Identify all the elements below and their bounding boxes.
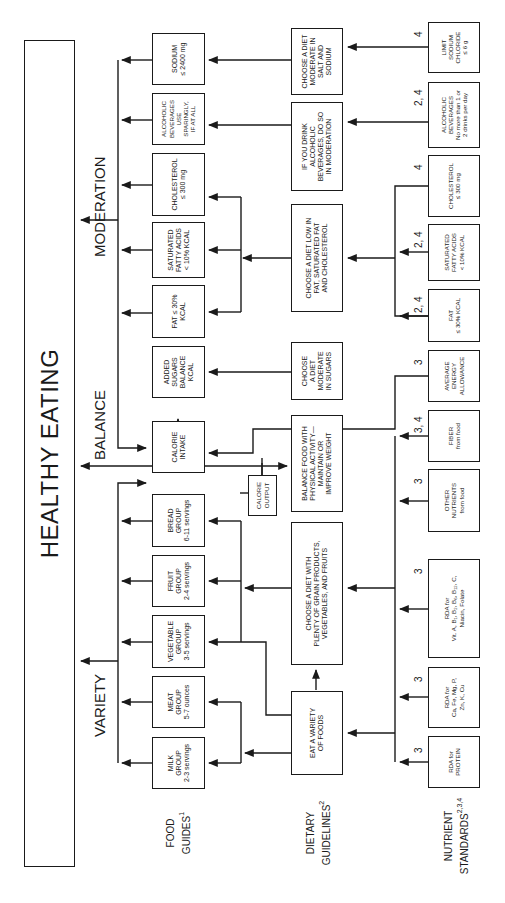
ref-rda-vitamins: 3 xyxy=(414,568,424,574)
nutrient-average-energy: AVERAGE ENERGY ALLOWANCE xyxy=(428,350,480,402)
nutrient-fiber: FIBER from food xyxy=(428,410,480,462)
nutrient-rda-vitamins: RDA for Vit. A, B₁, B₂, B₆, B₁₂, C, Niac… xyxy=(428,559,480,658)
row-label-dietary-guidelines: DIETARY GUIDELINES2 xyxy=(305,793,332,873)
guideline-low-fat: CHOOSE A DIET LOW IN FAT, SATURATED FAT … xyxy=(291,204,343,312)
nutrient-saturated-fat: SATURATED FATTY ACIDS < 10% KCAL xyxy=(428,224,480,281)
ref-alcohol: 2, 4 xyxy=(414,89,424,106)
guideline-plenty-grains: CHOOSE A DIET WITH PLENTY OF GRAIN PRODU… xyxy=(291,522,343,665)
nutrient-fat: FAT ≤ 30% KCAL xyxy=(428,289,480,342)
ref-other: 3 xyxy=(414,478,424,484)
food-guide-fat: FAT ≤ 30% KCAL xyxy=(152,285,205,338)
food-guide-vegetable: VEGETABLE GROUP 3-5 servings xyxy=(152,615,205,668)
nutrient-cholesterol: CHOLESTEROL ≤ 300 mg xyxy=(428,155,480,217)
food-guide-bread: BREAD GROUP 6-11 servings xyxy=(152,494,205,547)
ref-rda-protein: 3 xyxy=(414,747,424,753)
food-guide-fruit: FRUIT GROUP 2-4 servings xyxy=(152,555,205,607)
food-guide-calorie-intake: CALORIE INTAKE xyxy=(152,421,205,473)
guideline-salt-sodium: CHOOSE A DIET MODERATE IN SALT AND SODIU… xyxy=(291,28,343,95)
food-guide-meat: MEAT GROUP 5-7 ounces xyxy=(152,676,205,728)
ref-limit-sodium-chloride: 4 xyxy=(414,31,424,37)
guideline-variety: EAT A VARIETY OF FOODS xyxy=(291,691,343,775)
section-balance: BALANCE xyxy=(92,390,108,460)
nutrient-limit-sodium-chloride: LIMIT SODIUM CHLORIDE ≤ 6 g xyxy=(428,22,480,73)
section-variety: VARIETY xyxy=(92,674,108,737)
calorie-output-box: CALORIE OUTPUT xyxy=(248,475,277,516)
guideline-moderate-sugars: CHOOSE A DIET MODERATE IN SUGARS xyxy=(291,342,343,400)
section-moderation: MODERATION xyxy=(92,156,108,257)
healthy-eating-title-box: HEALTHY EATING xyxy=(24,40,75,867)
ref-fiber: 3, 4 xyxy=(414,416,424,433)
food-guide-alcohol: ALCOHOLIC BEVERAGES USE SPARINGLY, IF AT… xyxy=(152,93,205,145)
ref-fat: 2, 4 xyxy=(414,296,424,313)
ref-rda-minerals: 3 xyxy=(414,676,424,682)
food-guide-added-sugars: ADDED SUGARS BALANCE KCAL xyxy=(152,346,205,398)
guideline-balance-activity: BALANCE FOOD WITH PHYSICAL ACTIVITY— MAI… xyxy=(291,415,343,512)
nutrient-rda-minerals: RDA for Ca, Fe, Mg, P, Zn, K, Cu xyxy=(428,667,480,728)
ref-average-energy: 3 xyxy=(414,359,424,365)
row-label-food-guides: FOOD GUIDES1 xyxy=(165,803,192,863)
ref-cholesterol: 4 xyxy=(414,164,424,170)
food-guide-cholesterol: CHOLESTEROL ≤ 300 mg xyxy=(152,153,205,216)
guideline-alcohol: IF YOU DRINK ALCOHOLIC BEVERAGES, DO SO … xyxy=(291,102,343,191)
healthy-eating-title: HEALTHY EATING xyxy=(36,349,64,559)
food-guide-saturated-fat: SATURATED FATTY ACIDS < 10% KCAL xyxy=(152,222,205,278)
row-label-nutrient-standards: NUTRIENT STANDARDS2,3,4 xyxy=(443,791,470,881)
ref-saturated-fat: 2, 4 xyxy=(414,231,424,248)
healthy-eating-diagram: HEALTHY EATING MODERATION BALANCE VARIET… xyxy=(0,0,505,903)
food-guide-sodium: SODIUM ≤ 2400 mg xyxy=(152,33,205,85)
nutrient-alcohol: ALCOHOLIC BEVERAGES No more than 1 or 2 … xyxy=(428,82,480,148)
nutrient-rda-protein: RDA for PROTEIN xyxy=(428,736,480,788)
food-guide-milk: MILK GROUP 2-3 servings xyxy=(152,737,205,789)
nutrient-other: OTHER NUTRIENTS from food xyxy=(428,469,480,532)
